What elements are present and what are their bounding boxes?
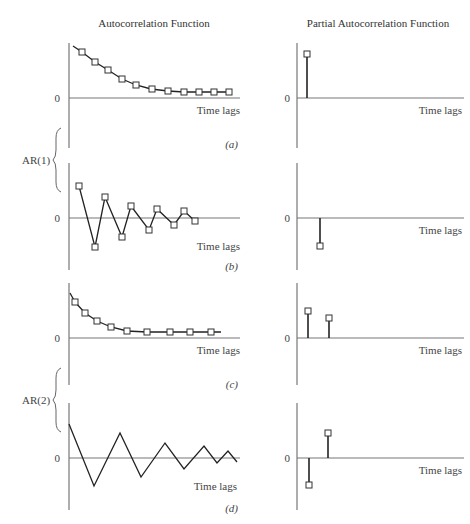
- pacf-marker: [317, 243, 323, 249]
- group-ar2: AR(2): [22, 368, 61, 432]
- panel-a-acf: 0 Time lags (a): [55, 43, 241, 151]
- pacf-marker: [305, 308, 311, 314]
- acf-curve: [79, 186, 195, 247]
- x-axis-label: Time lags: [419, 224, 462, 236]
- x-axis-label: Time lags: [419, 344, 462, 356]
- x-axis-label: Time lags: [197, 344, 240, 356]
- panel-a-pacf: 0 Time lags: [285, 43, 465, 148]
- pacf-marker: [306, 482, 312, 488]
- panel-c-acf: 0 Time lags (c): [55, 283, 241, 391]
- panel-tag: (b): [225, 260, 238, 273]
- panel-b-pacf: 0 Time lags: [285, 163, 465, 270]
- acf-markers: [79, 49, 232, 95]
- panel-d-pacf: 0 Time lags: [285, 403, 465, 510]
- brace-icon: [53, 368, 61, 432]
- group-label: AR(2): [22, 394, 50, 407]
- x-axis-label: Time lags: [194, 480, 237, 492]
- pacf-marker: [325, 430, 331, 436]
- acf-curve: [70, 293, 221, 332]
- panel-tag: (a): [225, 138, 238, 151]
- panel-b-acf: 0 Time lags (b): [55, 163, 241, 273]
- acf-curve: [69, 424, 237, 486]
- acf-markers: [72, 299, 214, 335]
- group-ar1: AR(1): [22, 128, 61, 192]
- zero-label: 0: [55, 92, 61, 104]
- panel-tag: (c): [226, 378, 239, 391]
- acf-title: Autocorrelation Function: [98, 17, 210, 29]
- brace-icon: [53, 128, 61, 192]
- x-axis-label: Time lags: [419, 464, 462, 476]
- group-label: AR(1): [22, 154, 50, 167]
- zero-label: 0: [285, 212, 291, 224]
- zero-label: 0: [285, 452, 291, 464]
- zero-label: 0: [285, 92, 291, 104]
- zero-label: 0: [285, 332, 291, 344]
- panel-c-pacf: 0 Time lags: [285, 283, 465, 385]
- pacf-marker: [304, 51, 310, 57]
- x-axis-label: Time lags: [197, 240, 240, 252]
- pacf-title: Partial Autocorrelation Function: [307, 17, 450, 29]
- pacf-marker: [326, 315, 332, 321]
- panel-d-acf: 0 Time lags (d): [55, 403, 241, 515]
- zero-label: 0: [55, 332, 61, 344]
- panel-tag: (d): [225, 502, 238, 515]
- x-axis-label: Time lags: [197, 104, 240, 116]
- zero-label: 0: [55, 452, 61, 464]
- acf-pacf-figure: Autocorrelation Function Partial Autocor…: [0, 0, 470, 524]
- acf-curve: [73, 46, 229, 92]
- zero-label: 0: [55, 212, 61, 224]
- x-axis-label: Time lags: [419, 104, 462, 116]
